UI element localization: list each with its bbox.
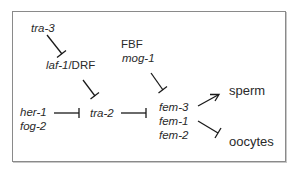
node-tra-3: tra-3: [31, 21, 55, 35]
inhibit-edge-her1-tra2: [54, 108, 79, 118]
inhibit-edge-tra2-fem: [121, 108, 146, 118]
node-mog-1: mog-1: [122, 51, 155, 65]
node-laf-1: laf-1: [46, 59, 68, 71]
inhibit-edge-fem-oocytes: [198, 121, 221, 138]
inhibit-edge-mog1-fem: [151, 73, 167, 93]
node-laf-1-drf: laf-1/DRF: [46, 58, 95, 72]
node-fem-2: fem-2: [159, 128, 188, 142]
node-fbf: FBF: [121, 37, 143, 51]
inhibit-edge-tra3-laf1: [47, 35, 66, 58]
activate-edge-fem-sperm: [198, 95, 219, 107]
node-fem-3: fem-3: [159, 100, 188, 114]
node-fog-2: fog-2: [20, 119, 46, 133]
node-sperm: sperm: [229, 84, 265, 98]
node-her-1: her-1: [20, 105, 47, 119]
inhibit-edge-laf1-tra2: [83, 80, 99, 99]
node-drf: DRF: [72, 59, 96, 71]
node-fem-1: fem-1: [159, 114, 188, 128]
node-tra-2: tra-2: [90, 106, 114, 120]
node-oocytes: oocytes: [229, 135, 274, 149]
